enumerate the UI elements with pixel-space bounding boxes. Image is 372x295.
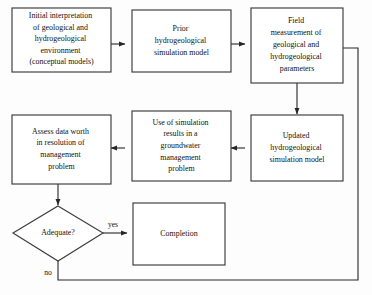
node-adequate-decision[interactable]: Adequate? <box>13 206 103 261</box>
edge-label-no: no <box>44 268 52 277</box>
node-use-of-simulation[interactable]: Use of simulation results in a groundwat… <box>132 111 231 181</box>
node-initial-interpretation-label: Initial interpretation of geological and… <box>29 11 94 66</box>
node-completion[interactable]: Completion <box>133 203 225 265</box>
node-updated-model[interactable]: Updated hydrogeological simulation model <box>251 115 343 181</box>
node-completion-label: Completion <box>160 229 197 238</box>
node-initial-interpretation[interactable]: Initial interpretation of geological and… <box>12 8 111 72</box>
node-prior-model[interactable]: Prior hydrogeological simulation model <box>132 10 231 72</box>
flowchart-canvas: Initial interpretation of geological and… <box>0 0 372 295</box>
edge-label-yes: yes <box>108 220 118 229</box>
node-adequate-decision-label: Adequate? <box>41 228 75 237</box>
flowchart-diagram: Initial interpretation of geological and… <box>0 0 372 295</box>
node-field-measurement[interactable]: Field measurement of geological and hydr… <box>251 8 343 83</box>
node-assess-data-worth[interactable]: Assess data worth in resolution of manag… <box>12 115 111 184</box>
